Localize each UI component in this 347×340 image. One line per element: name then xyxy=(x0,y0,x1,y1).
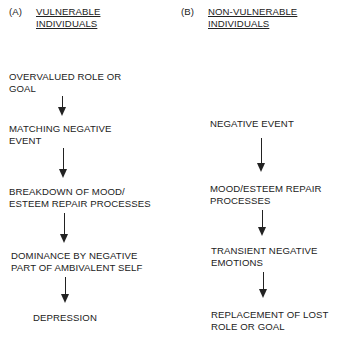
step-b3-line1: TRANSIENT NEGATIVE xyxy=(211,245,317,257)
arrow-down-icon xyxy=(61,277,69,303)
step-b4-line1: REPLACEMENT OF LOST xyxy=(211,309,328,321)
arrow-down-icon xyxy=(60,213,68,243)
step-a3-line2: ESTEEM REPAIR PROCESSES xyxy=(9,198,151,210)
step-a5-line1: DEPRESSION xyxy=(33,312,97,324)
panel-a-label: (A) xyxy=(9,6,22,18)
step-a3-line1: BREAKDOWN OF MOOD/ xyxy=(9,186,125,198)
step-a2-line2: EVENT xyxy=(9,135,42,147)
step-b2-line1: MOOD/ESTEEM REPAIR xyxy=(210,183,321,195)
step-b2-line2: PROCESSES xyxy=(210,195,271,207)
step-b4-line2: ROLE OR GOAL xyxy=(211,321,285,333)
panel-b-title-line2: INDIVIDUALS xyxy=(208,18,269,30)
step-b1-line1: NEGATIVE EVENT xyxy=(210,118,294,130)
arrow-down-icon xyxy=(58,96,66,116)
arrow-down-icon xyxy=(259,272,267,298)
step-a1-line2: GOAL xyxy=(9,83,36,95)
arrow-down-icon xyxy=(257,138,265,172)
step-b3-line2: EMOTIONS xyxy=(211,257,263,269)
panel-a-title-line2: INDIVIDUALS xyxy=(36,18,97,30)
arrow-down-icon xyxy=(258,210,266,236)
arrow-down-icon xyxy=(59,148,67,178)
step-a2-line1: MATCHING NEGATIVE xyxy=(9,123,112,135)
panel-a-title-line1: VULNERABLE xyxy=(36,6,100,18)
step-a4-line1: DOMINANCE BY NEGATIVE xyxy=(11,250,138,262)
panel-b-title-line1: NON-VULNERABLE xyxy=(208,6,297,18)
step-a1-line1: OVERVALUED ROLE OR xyxy=(9,71,121,83)
panel-b-label: (B) xyxy=(181,6,194,18)
step-a4-line2: PART OF AMBIVALENT SELF xyxy=(11,262,143,274)
